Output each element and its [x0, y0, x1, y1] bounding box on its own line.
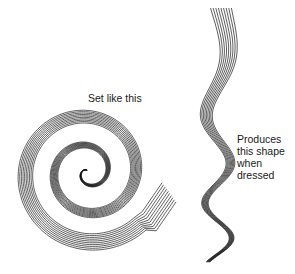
set-like-this-label: Set like this	[88, 92, 142, 104]
hair-strand-line	[29, 120, 165, 237]
label-line: dressed	[237, 169, 285, 181]
label-line: when	[237, 157, 285, 169]
hair-strand-line	[26, 117, 168, 241]
label-line: Produces	[237, 133, 285, 145]
hair-strand-line	[25, 116, 170, 243]
wavy-strand-illustration	[200, 8, 237, 262]
pin-curl-spiral-illustration	[18, 110, 176, 250]
produces-shape-label: Produces this shape when dressed	[237, 133, 285, 181]
hair-strand-line	[204, 8, 231, 262]
hair-strand-line	[23, 115, 171, 245]
hair-strand-line	[200, 8, 229, 262]
hair-strand-line	[21, 113, 173, 246]
label-line: this shape	[237, 145, 285, 157]
